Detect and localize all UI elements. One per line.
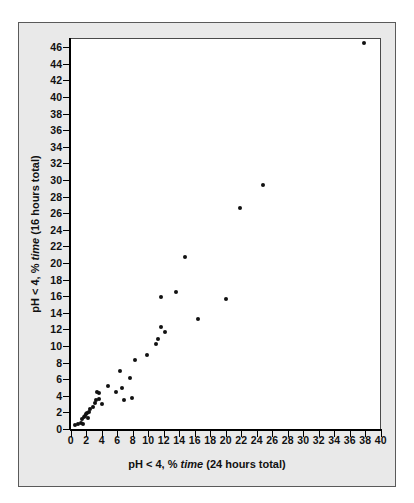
y-tick-mark [63, 180, 70, 181]
x-tick-mark [148, 431, 149, 437]
x-tick-mark [179, 431, 180, 437]
y-tick-mark [63, 47, 70, 48]
y-tick-mark [63, 363, 70, 364]
x-tick-mark [226, 431, 227, 437]
y-tick-mark [63, 313, 70, 314]
y-tick-mark [63, 329, 70, 330]
x-tick-mark [350, 431, 351, 437]
y-tick-mark [63, 197, 70, 198]
y-tick-label: 42 [34, 75, 62, 86]
x-tick-mark [241, 431, 242, 437]
x-axis-label-post: (24 hours total) [203, 458, 286, 470]
x-tick-mark [303, 431, 304, 437]
x-tick-mark [102, 431, 103, 437]
x-tick-mark [210, 431, 211, 437]
y-tick-label: 40 [34, 92, 62, 103]
y-tick-mark [63, 396, 70, 397]
x-tick-mark [381, 431, 382, 437]
y-tick-label: 6 [34, 374, 62, 385]
y-tick-mark [63, 429, 70, 430]
data-point [118, 369, 122, 373]
y-tick-mark [63, 80, 70, 81]
x-tick-mark [365, 431, 366, 437]
x-axis-label-pre: pH < 4, % [128, 458, 180, 470]
y-tick-mark [63, 280, 70, 281]
scatter-plot-figure: 0246810121416182022242628303234363840424… [0, 0, 414, 503]
y-tick-label: 46 [34, 42, 62, 53]
data-point [224, 297, 228, 301]
data-point [154, 342, 158, 346]
x-tick-mark [257, 431, 258, 437]
y-tick-mark [63, 346, 70, 347]
plot-area [70, 38, 381, 430]
x-tick-mark [164, 431, 165, 437]
x-tick-mark [133, 431, 134, 437]
y-axis-label-post: (16 hours total) [29, 155, 41, 238]
x-tick-mark [71, 431, 72, 437]
y-tick-mark [63, 64, 70, 65]
y-tick-mark [63, 147, 70, 148]
x-tick-mark [334, 431, 335, 437]
y-tick-label: 2 [34, 407, 62, 418]
data-point [238, 206, 242, 210]
y-tick-mark [63, 296, 70, 297]
y-tick-mark [63, 114, 70, 115]
x-tick-mark [117, 431, 118, 437]
x-tick-mark [86, 431, 87, 437]
y-axis-label-italic: time [29, 238, 41, 261]
data-point [159, 325, 163, 329]
y-tick-mark [63, 230, 70, 231]
y-tick-label: 44 [34, 59, 62, 70]
x-axis-label-italic: time [181, 458, 204, 470]
data-point [261, 183, 265, 187]
y-tick-mark [63, 412, 70, 413]
x-tick-mark [319, 431, 320, 437]
y-axis-label: pH < 4, % time (16 hours total) [29, 114, 41, 354]
data-point [362, 41, 366, 45]
y-tick-mark [63, 130, 70, 131]
data-point [86, 416, 90, 420]
data-point [156, 337, 160, 341]
y-tick-label: 4 [34, 391, 62, 402]
data-point [106, 384, 110, 388]
x-tick-mark [195, 431, 196, 437]
y-tick-mark [63, 97, 70, 98]
y-tick-mark [63, 246, 70, 247]
y-tick-mark [63, 213, 70, 214]
x-tick-mark [272, 431, 273, 437]
y-tick-mark [63, 163, 70, 164]
y-tick-mark [63, 379, 70, 380]
data-point [97, 391, 101, 395]
x-axis-label: pH < 4, % time (24 hours total) [18, 458, 396, 470]
y-tick-label: 8 [34, 357, 62, 368]
y-tick-label: 0 [34, 424, 62, 435]
y-tick-mark [63, 263, 70, 264]
y-axis-label-pre: pH < 4, % [29, 260, 41, 312]
x-tick-mark [288, 431, 289, 437]
